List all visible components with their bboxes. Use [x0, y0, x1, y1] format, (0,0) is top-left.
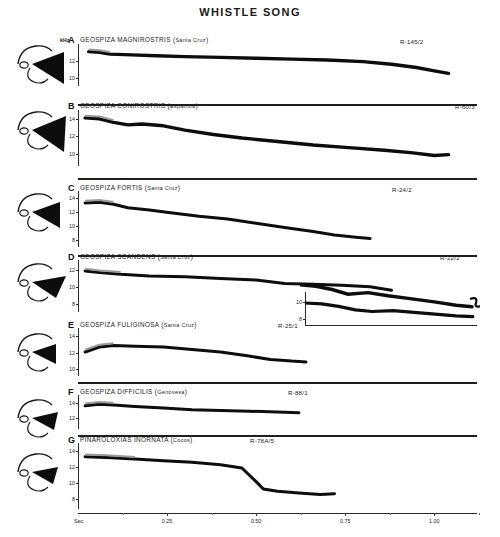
species-name: GEOSPIZA MAGNIROSTRIS: [80, 36, 171, 43]
panel-letter-c: C: [68, 183, 75, 193]
panel-letter-f: F: [68, 387, 74, 397]
panel-letter-b: B: [68, 101, 75, 111]
inset-y-tick-label: 8: [299, 316, 302, 322]
finch-head-silhouette: [6, 326, 68, 382]
finch-head-silhouette: [6, 392, 68, 448]
y-tick-label: 10: [69, 284, 75, 290]
y-tick-label: 14: [69, 448, 75, 454]
y-tick-label: 12: [69, 133, 75, 139]
finch-head-silhouette: [6, 256, 68, 312]
y-tick-label: 12: [69, 267, 75, 273]
time-tick-label: 1.00: [429, 518, 440, 524]
y-tick-label: 12: [69, 350, 75, 356]
y-tick-label: 10: [69, 366, 75, 372]
y-tick-label: 12: [69, 464, 75, 470]
recording-code-c: R-24/2: [392, 186, 412, 193]
axes-f: 1412: [78, 395, 306, 429]
figure-title: WHISTLE SONG: [0, 6, 500, 18]
spectrogram-trace-b: [78, 110, 459, 166]
time-minor-tick: [123, 513, 124, 515]
recording-code-b: R-60/3: [455, 103, 475, 110]
time-tick: [434, 513, 435, 516]
spectrogram-trace-f: [78, 395, 306, 429]
time-tick-label: 0.75: [340, 518, 351, 524]
y-tick-label: 14: [69, 400, 75, 406]
axes-a: 1210: [78, 44, 463, 86]
finch-head-silhouette: [6, 104, 68, 160]
species-name: GEOSPIZA FORTIS: [80, 184, 143, 191]
y-tick-label: 10: [69, 480, 75, 486]
time-tick-label: 0.25: [162, 518, 173, 524]
species-name: PINAROLOXIAS INORNATA: [80, 436, 168, 443]
axes-g: 1412108: [78, 443, 349, 509]
spectrogram-trace-c: [78, 191, 381, 247]
bird-head-e: [6, 326, 68, 382]
bird-head-c: [6, 186, 68, 242]
bird-head-f: [6, 392, 68, 448]
y-tick-label: 10: [69, 223, 75, 229]
finch-head-silhouette: [6, 38, 68, 94]
spectrogram-trace-e: [78, 328, 313, 376]
bird-head-a: [6, 38, 68, 94]
time-tick: [345, 513, 346, 516]
species-label-e: GEOSPIZA FULIGINOSA (Santa Cruz): [80, 321, 197, 328]
y-tick-label: 8: [72, 496, 75, 502]
species-label-d: GEOSPIZA SCANDENS (Santa Cruz): [80, 253, 193, 260]
species-label-c: GEOSPIZA FORTIS (Santa Cruz): [80, 184, 180, 191]
panel-baseline-e: [78, 382, 477, 384]
recording-code-d: R-22/2: [440, 254, 460, 261]
panel-letter-e: E: [68, 320, 74, 330]
species-name: GEOSPIZA SCANDENS: [80, 253, 156, 260]
finch-head-silhouette: [6, 186, 68, 242]
spectrogram-trace-g: [78, 443, 349, 509]
time-axis: Sec.0.250.500.751.00: [78, 513, 477, 527]
axes-b: 141210: [78, 110, 459, 166]
y-tick-label: 10: [69, 75, 75, 81]
time-tick: [256, 513, 257, 516]
y-tick-label: 12: [69, 209, 75, 215]
species-name: GEOSPIZA CONIROSTRIS: [80, 102, 165, 109]
time-minor-tick: [390, 513, 391, 515]
spectrogram-trace-a: [78, 44, 463, 86]
time-tick-label: 0.50: [251, 518, 262, 524]
species-name: GEOSPIZA DIFFICILIS: [80, 388, 153, 395]
y-tick-label: 12: [69, 415, 75, 421]
bird-head-b: [6, 104, 68, 160]
time-minor-tick: [212, 513, 213, 515]
panel-letter-g: G: [68, 435, 75, 445]
bird-head-g: [6, 446, 68, 502]
whistle-song-figure: WHISTLE SONG AGEOSPIZA MAGNIROSTRIS (San…: [0, 0, 500, 537]
panel-letter-d: D: [68, 252, 75, 262]
finch-head-silhouette: [6, 446, 68, 502]
y-tick-label: 14: [69, 333, 75, 339]
locality-name: Santa Cruz: [175, 37, 205, 43]
time-axis-line: [78, 513, 477, 514]
y-tick-label: 8: [72, 237, 75, 243]
species-label-a: GEOSPIZA MAGNIROSTRIS (Santa Cruz): [80, 36, 208, 43]
inset-upper-trace: [300, 280, 480, 310]
time-axis-unit-label: Sec.: [74, 518, 85, 524]
locality-name: Española: [170, 103, 195, 109]
y-tick-label: 8: [72, 301, 75, 307]
species-label-f: GEOSPIZA DIFFICILIS (Genovesa): [80, 388, 187, 395]
species-label-b: GEOSPIZA CONIROSTRIS (Española): [80, 102, 198, 109]
axes-e: 141210: [78, 328, 313, 376]
axes-c: 1412108: [78, 191, 381, 247]
y-tick-label: 10: [69, 151, 75, 157]
y-tick-label: 14: [69, 195, 75, 201]
time-tick: [167, 513, 168, 516]
time-minor-tick: [479, 513, 480, 515]
y-tick-label: 12: [69, 58, 75, 64]
species-label-g: PINAROLOXIAS INORNATA (Cocos): [80, 436, 193, 443]
y-tick-label: 14: [69, 116, 75, 122]
species-name: GEOSPIZA FULIGINOSA: [80, 321, 159, 328]
bird-head-d: [6, 256, 68, 312]
panel-baseline-b: [78, 178, 477, 180]
time-minor-tick: [301, 513, 302, 515]
